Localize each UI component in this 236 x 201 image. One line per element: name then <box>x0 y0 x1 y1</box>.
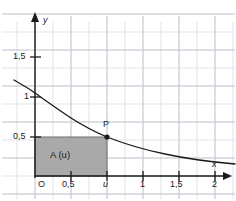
x-tick-label-1: 1 <box>140 180 145 189</box>
x-tick-label-u: u <box>103 180 108 189</box>
x-axis-arrowhead <box>223 172 232 180</box>
x-tick-label-0-5: 0,5 <box>62 180 75 189</box>
y-axis-label: y <box>43 16 48 25</box>
y-tick-label-1-5: 1,5 <box>13 52 26 61</box>
x-tick-label-1-5: 1,5 <box>170 180 183 189</box>
plot-svg <box>0 0 236 201</box>
shaded-area-rect <box>35 137 107 176</box>
shaded-area-label: A (u) <box>50 150 70 160</box>
y-tick-label-0-5: 0,5 <box>13 132 26 141</box>
figure-container: y x O 1,5 1 0,5 0,5 u 1 1,5 2 P A (u) <box>0 0 236 201</box>
x-axis-label: x <box>212 160 217 169</box>
point-p-marker <box>104 134 109 139</box>
x-tick-label-2: 2 <box>212 180 217 189</box>
point-p-label: P <box>103 120 109 129</box>
origin-label: O <box>38 180 45 189</box>
y-tick-label-1: 1 <box>24 92 29 101</box>
